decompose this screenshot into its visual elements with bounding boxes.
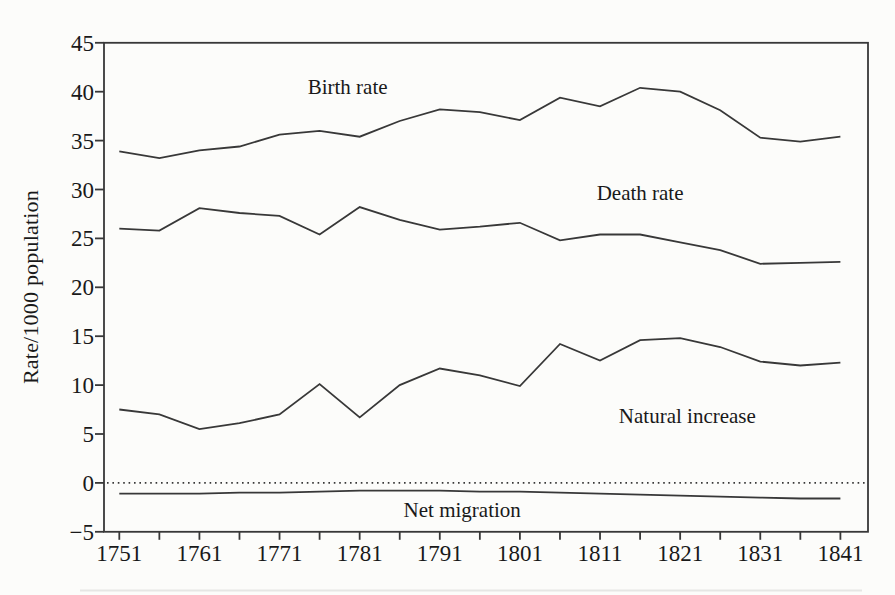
- death-rate-line: [119, 207, 840, 264]
- y-tick-label: 45: [71, 31, 94, 56]
- death-rate-label: Death rate: [597, 181, 684, 205]
- y-tick-label: 25: [71, 226, 94, 251]
- x-tick-label: 1841: [817, 541, 863, 566]
- birth-rate-line: [119, 88, 840, 158]
- population-rates-line-chart: 454035302520151050−517511761177117811791…: [0, 0, 895, 595]
- x-tick-label: 1791: [417, 541, 463, 566]
- x-tick-label: 1811: [577, 541, 622, 566]
- y-tick-label: 20: [71, 275, 94, 300]
- y-tick-label: 30: [71, 178, 94, 203]
- y-tick-label: 0: [83, 471, 95, 496]
- x-tick-label: 1771: [257, 541, 303, 566]
- y-tick-label: 10: [71, 373, 94, 398]
- x-tick-label: 1801: [497, 541, 543, 566]
- y-tick-label: 15: [71, 324, 94, 349]
- y-tick-label: 40: [71, 80, 94, 105]
- plot-frame: [104, 43, 868, 532]
- y-tick-label: 35: [71, 129, 94, 154]
- x-tick-label: 1761: [176, 541, 222, 566]
- x-tick-label: 1751: [96, 541, 142, 566]
- y-tick-label: 5: [83, 422, 95, 447]
- birth-rate-label: Birth rate: [308, 75, 388, 99]
- x-tick-label: 1831: [737, 541, 783, 566]
- y-tick-label: −5: [70, 520, 94, 545]
- scanned-chart-page: Rate/1000 population 454035302520151050−…: [0, 0, 895, 595]
- net-migration-label: Net migration: [404, 498, 522, 522]
- x-tick-label: 1781: [337, 541, 383, 566]
- natural-increase-label: Natural increase: [619, 404, 756, 428]
- x-tick-label: 1821: [657, 541, 703, 566]
